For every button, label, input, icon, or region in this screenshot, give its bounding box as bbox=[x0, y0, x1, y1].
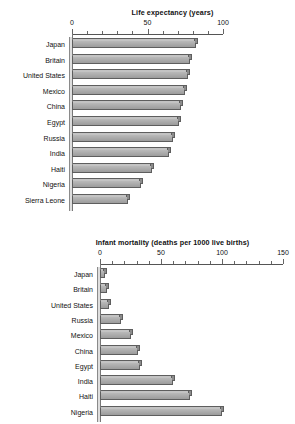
category-label-japan: Japan bbox=[0, 41, 65, 48]
bar-china bbox=[100, 347, 138, 355]
bar-top-face bbox=[73, 132, 172, 135]
bar-end-cap bbox=[184, 85, 187, 91]
bar-united-states bbox=[72, 71, 188, 79]
bar-end-cap bbox=[108, 299, 111, 305]
category-label-egypt: Egypt bbox=[0, 362, 93, 369]
x-axis-tick bbox=[173, 261, 174, 264]
x-axis-tick bbox=[198, 261, 199, 264]
x-axis-tick bbox=[210, 261, 211, 264]
bar-top-face bbox=[101, 314, 120, 317]
bar-britain bbox=[72, 56, 190, 64]
bar-top-face bbox=[73, 178, 140, 181]
x-axis-line bbox=[72, 34, 223, 35]
x-axis-tick bbox=[223, 29, 224, 34]
bar-end-cap bbox=[130, 329, 133, 335]
bar-end-cap bbox=[120, 314, 123, 320]
bar-end-cap bbox=[172, 375, 175, 381]
x-axis-tick bbox=[208, 31, 209, 34]
x-axis-tick bbox=[185, 261, 186, 264]
bar-end-cap bbox=[187, 69, 190, 75]
chart-life-expectancy: Life expectancy (years) 050100JapanBrita… bbox=[0, 0, 295, 228]
x-axis-tick-label: 150 bbox=[277, 249, 289, 256]
x-axis-tick bbox=[222, 259, 223, 264]
bar-end-cap bbox=[189, 54, 192, 60]
category-label-britain: Britain bbox=[0, 286, 93, 293]
bar-china bbox=[72, 102, 181, 110]
bar-top-face bbox=[73, 54, 189, 57]
x-axis-tick bbox=[271, 261, 272, 264]
bar-top-face bbox=[73, 194, 127, 197]
category-label-china: China bbox=[0, 103, 65, 110]
bar-end-cap bbox=[172, 132, 175, 138]
bar-japan bbox=[72, 40, 196, 48]
bar-top-face bbox=[101, 375, 172, 378]
x-axis-tick bbox=[283, 259, 284, 264]
x-axis-tick bbox=[161, 259, 162, 264]
bar-mexico bbox=[100, 331, 131, 339]
x-axis-tick bbox=[259, 261, 260, 264]
figure-root: Life expectancy (years) 050100JapanBrita… bbox=[0, 0, 295, 424]
bar-top-face bbox=[73, 116, 178, 119]
x-axis-tick bbox=[234, 261, 235, 264]
plot-area-infant-mortality: 050100150JapanBritainUnited StatesRussia… bbox=[0, 228, 295, 424]
x-axis-tick bbox=[193, 31, 194, 34]
category-label-haiti: Haiti bbox=[0, 393, 93, 400]
bar-end-cap bbox=[137, 345, 140, 351]
category-label-mexico: Mexico bbox=[0, 332, 93, 339]
x-axis-tick bbox=[163, 31, 164, 34]
category-label-united-states: United States bbox=[0, 301, 93, 308]
bar-russia bbox=[100, 316, 121, 324]
category-label-nigeria: Nigeria bbox=[0, 408, 93, 415]
bar-end-cap bbox=[178, 116, 181, 122]
bar-top-face bbox=[73, 69, 187, 72]
category-label-japan: Japan bbox=[0, 271, 93, 278]
category-label-sierra-leone: Sierra Leone bbox=[0, 197, 65, 204]
bar-top-face bbox=[73, 38, 195, 41]
x-axis-tick-label: 100 bbox=[217, 19, 229, 26]
bar-top-face bbox=[101, 390, 189, 393]
bar-end-cap bbox=[189, 390, 192, 396]
x-axis-tick-label: 50 bbox=[144, 19, 152, 26]
plot-area-life-expectancy: 050100JapanBritainUnited StatesMexicoChi… bbox=[0, 0, 295, 228]
bar-russia bbox=[72, 134, 173, 142]
bar-egypt bbox=[72, 118, 179, 126]
x-axis-tick bbox=[117, 31, 118, 34]
x-axis-tick bbox=[102, 31, 103, 34]
x-axis-tick bbox=[124, 261, 125, 264]
bar-britain bbox=[100, 285, 107, 293]
bar-haiti bbox=[100, 392, 190, 400]
bar-end-cap bbox=[139, 360, 142, 366]
x-axis-tick bbox=[132, 31, 133, 34]
bar-end-cap bbox=[195, 38, 198, 44]
x-axis-tick bbox=[137, 261, 138, 264]
bar-egypt bbox=[100, 362, 140, 370]
category-label-nigeria: Nigeria bbox=[0, 181, 65, 188]
bar-end-cap bbox=[168, 147, 171, 153]
x-axis-tick bbox=[87, 31, 88, 34]
bar-nigeria bbox=[100, 408, 222, 416]
bar-india bbox=[100, 377, 173, 385]
category-label-china: China bbox=[0, 347, 93, 354]
bar-top-face bbox=[101, 360, 139, 363]
category-label-britain: Britain bbox=[0, 56, 65, 63]
x-axis-tick bbox=[246, 261, 247, 264]
x-axis-tick-label: 0 bbox=[70, 19, 74, 26]
category-label-russia: Russia bbox=[0, 316, 93, 323]
bar-end-cap bbox=[127, 194, 130, 200]
bar-japan bbox=[100, 270, 105, 278]
bar-end-cap bbox=[104, 268, 107, 274]
bar-top-face bbox=[73, 147, 168, 150]
bar-end-cap bbox=[180, 100, 183, 106]
x-axis-tick bbox=[149, 261, 150, 264]
x-axis-tick bbox=[112, 261, 113, 264]
bar-top-face bbox=[101, 406, 221, 409]
x-axis-tick-label: 0 bbox=[98, 249, 102, 256]
bar-end-cap bbox=[151, 163, 154, 169]
category-label-egypt: Egypt bbox=[0, 119, 65, 126]
x-axis-tick bbox=[148, 29, 149, 34]
bar-end-cap bbox=[106, 283, 109, 289]
bar-top-face bbox=[73, 85, 184, 88]
bar-united-states bbox=[100, 301, 109, 309]
category-label-mexico: Mexico bbox=[0, 87, 65, 94]
category-label-russia: Russia bbox=[0, 134, 65, 141]
